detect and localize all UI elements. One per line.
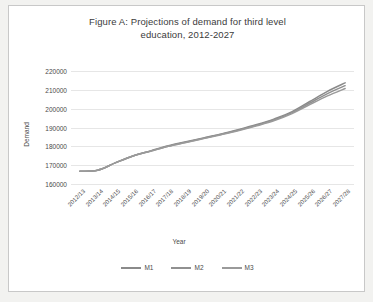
y-axis-tick-label: 190000 bbox=[23, 124, 67, 131]
x-axis-tick-labels: 2012/132013/142014/152015/162016/172017/… bbox=[71, 6, 354, 293]
legend-label: M2 bbox=[194, 264, 203, 271]
y-axis-tick-labels: 2200002100002000001900001800001700001600… bbox=[23, 6, 67, 293]
legend-swatch bbox=[171, 267, 191, 269]
y-axis-tick-label: 160000 bbox=[23, 181, 67, 188]
legend-swatch bbox=[121, 267, 141, 269]
plot-area: Demand 220000210000200000190000180000170… bbox=[9, 6, 366, 293]
legend-item-m1[interactable]: M1 bbox=[121, 264, 153, 271]
legend-swatch bbox=[222, 267, 242, 269]
x-axis-title: Year bbox=[139, 238, 219, 245]
legend-label: M1 bbox=[144, 264, 153, 271]
y-axis-tick-label: 170000 bbox=[23, 162, 67, 169]
y-axis-tick-label: 200000 bbox=[23, 105, 67, 112]
y-axis-tick-label: 180000 bbox=[23, 143, 67, 150]
y-axis-tick-label: 210000 bbox=[23, 86, 67, 93]
legend-item-m2[interactable]: M2 bbox=[171, 264, 203, 271]
chart-container: Figure A: Projections of demand for thir… bbox=[8, 5, 365, 292]
legend-label: M3 bbox=[245, 264, 254, 271]
y-axis-tick-label: 220000 bbox=[23, 68, 67, 75]
chart-legend: M1M2M3 bbox=[9, 264, 366, 271]
legend-item-m3[interactable]: M3 bbox=[222, 264, 254, 271]
